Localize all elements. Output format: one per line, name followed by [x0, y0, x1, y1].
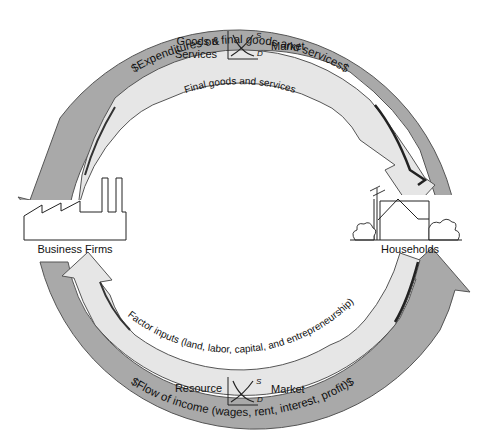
- supply-label: S: [256, 31, 262, 40]
- households-label: Households: [381, 243, 440, 255]
- circular-flow-diagram: $Expenditures on final goods and service…: [0, 0, 478, 442]
- goods-market-label: Market: [271, 40, 305, 52]
- resource-market-label-market: Market: [271, 383, 305, 395]
- factor-inputs-label: Factor inputs (land, labor, capital, and…: [126, 296, 355, 355]
- supply-label: S: [256, 377, 262, 386]
- demand-label: D: [257, 49, 263, 58]
- resource-market-label: Resource: [175, 382, 222, 394]
- households-node: Households: [350, 186, 462, 255]
- goods-market-label-line1: Goods &: [177, 35, 220, 47]
- business-firms-label: Business Firms: [37, 243, 113, 255]
- goods-market-label-line2: Services: [175, 48, 218, 60]
- demand-label: D: [257, 395, 263, 404]
